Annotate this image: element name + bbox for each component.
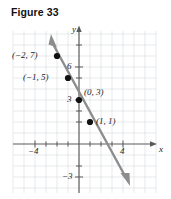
point-label-0-3: (0, 3): [84, 88, 104, 97]
data-point: [76, 97, 82, 103]
y-axis: [76, 26, 81, 194]
data-point: [65, 75, 71, 81]
x-axis-label: x: [159, 145, 163, 154]
point-label-neg1-5: (−1, 5): [23, 73, 49, 82]
y-tick-label-6: 6: [67, 62, 72, 71]
point-label-neg2-7: (−2, 7): [12, 51, 38, 60]
point-label-1-1: (1, 1): [96, 117, 116, 126]
y-axis-label: y: [72, 25, 76, 34]
y-tick-label-neg3: −3: [62, 172, 73, 181]
data-point: [54, 53, 60, 59]
y-tick-label-3: 3: [67, 95, 72, 104]
coordinate-plane-graph: [0, 0, 171, 199]
data-point: [87, 119, 93, 125]
x-tick-label-4: 4: [120, 147, 125, 156]
x-tick-label-neg4: −4: [28, 147, 39, 156]
plotted-line: [49, 34, 131, 186]
